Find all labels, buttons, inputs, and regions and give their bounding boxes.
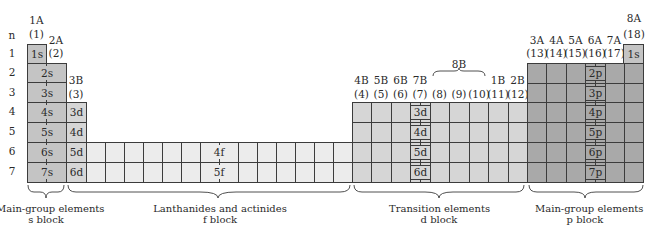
block-braces	[0, 0, 652, 233]
d-block-subcaption: d block	[389, 214, 489, 226]
f-block-brace	[68, 185, 350, 198]
s-block-subcaption: s block	[0, 214, 96, 226]
d-block-brace	[354, 185, 524, 198]
f-block-subcaption: f block	[150, 214, 290, 226]
s-block-brace	[28, 185, 64, 198]
p-block-subcaption: p block	[535, 214, 635, 226]
p-block-brace	[529, 185, 643, 198]
